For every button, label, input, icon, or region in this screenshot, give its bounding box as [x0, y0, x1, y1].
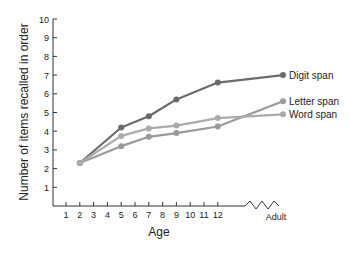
- x-axis: 123456789101112Adult: [53, 201, 287, 222]
- data-point: [173, 96, 179, 102]
- y-tick-label: 9: [44, 33, 49, 43]
- y-tick-label: 4: [44, 127, 49, 137]
- data-point: [280, 98, 286, 104]
- y-tick-label: 3: [44, 145, 49, 155]
- axis-break-icon: [245, 201, 279, 209]
- x-tick-label: 6: [132, 210, 137, 220]
- data-point: [215, 115, 221, 121]
- data-point: [77, 160, 83, 166]
- data-point: [280, 72, 286, 78]
- x-tick-label: 4: [105, 210, 110, 220]
- y-tick-label: 5: [44, 108, 49, 118]
- data-point: [215, 124, 221, 130]
- data-point: [118, 133, 124, 139]
- x-tick-label: 1: [63, 210, 68, 220]
- series-label: Letter span: [289, 96, 339, 107]
- series-label: Digit span: [289, 70, 333, 81]
- x-tick-label: Adult: [266, 212, 287, 222]
- series-label: Word span: [289, 109, 337, 120]
- data-point: [215, 80, 221, 86]
- y-tick-label: 8: [44, 52, 49, 62]
- series-word-span: Word span: [77, 109, 337, 166]
- y-tick-label: 7: [44, 71, 49, 81]
- data-point: [173, 130, 179, 136]
- y-tick-label: 2: [44, 164, 49, 174]
- y-axis: 12345678910: [39, 15, 57, 207]
- y-axis-label: Number of items recalled in order: [17, 23, 31, 200]
- y-tick-label: 6: [44, 89, 49, 99]
- data-point: [280, 111, 286, 117]
- x-tick-label: 8: [160, 210, 165, 220]
- x-tick-label: 10: [185, 210, 195, 220]
- data-point: [146, 134, 152, 140]
- x-tick-label: 7: [146, 210, 151, 220]
- x-tick-label: 9: [174, 210, 179, 220]
- x-tick-label: 2: [77, 210, 82, 220]
- data-point: [173, 123, 179, 129]
- series-lines: Digit spanLetter spanWord span: [77, 70, 339, 166]
- data-point: [146, 125, 152, 131]
- y-tick-label: 1: [44, 183, 49, 193]
- data-point: [146, 113, 152, 119]
- x-tick-label: 5: [119, 210, 124, 220]
- data-point: [118, 143, 124, 149]
- y-tick-label: 10: [39, 15, 49, 25]
- x-axis-label: Age: [148, 225, 170, 239]
- line-chart: 12345678910 123456789101112Adult Digit s…: [0, 0, 349, 254]
- data-point: [118, 124, 124, 130]
- x-tick-label: 12: [213, 210, 223, 220]
- x-tick-label: 3: [91, 210, 96, 220]
- x-tick-label: 11: [199, 210, 208, 220]
